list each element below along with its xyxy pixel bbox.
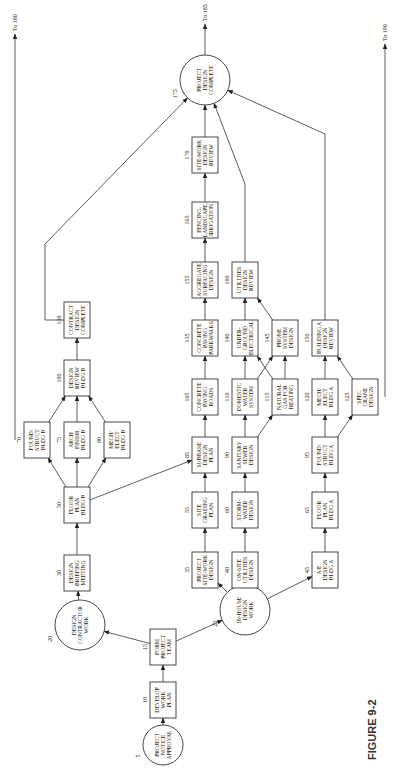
dependency-arrow-90-115 — [257, 415, 272, 437]
node-label-line: NATURAL — [276, 383, 282, 410]
node-label-line: FLOOR — [316, 501, 322, 520]
node-number: 55 — [184, 507, 190, 513]
node-label-line: PLAN — [208, 503, 214, 518]
node-label-line: ELECT — [322, 388, 328, 406]
node-number: 135 — [184, 334, 190, 343]
node-label-line: REVIEW — [328, 326, 334, 348]
node-label-line: GAS FOR — [282, 385, 288, 409]
node-label-line: BLDG B — [80, 368, 86, 389]
node-label-line: ELECT — [114, 431, 120, 449]
figure-label-text: FIGURE 9-2 — [366, 699, 378, 760]
dependency-arrow-20-30 — [78, 591, 79, 600]
node-label-line: DESIGN — [208, 560, 214, 581]
node-label-line: CONCRETE — [196, 323, 202, 353]
node-label-line: IRRIGATION — [208, 204, 214, 236]
dependency-arrow-145-160 — [257, 298, 272, 320]
node-label-line: NOTICE — [160, 734, 166, 755]
node-label-line: FORM — [154, 639, 160, 655]
node-number: 120 — [304, 393, 310, 402]
activity-node-170: 170SITE-WORKDESIGNREVIEW — [184, 137, 218, 173]
node-label-line: REVIEW — [208, 143, 214, 165]
node-number: 170 — [184, 151, 190, 160]
node-number: 125 — [344, 393, 350, 402]
node-label-line: SITE-WORK — [196, 140, 202, 171]
node-label-line: DOMESTIC — [236, 382, 242, 411]
node-number: 175 — [172, 89, 178, 98]
activity-node-15: 15FORMPROJECTTEAM — [142, 629, 176, 665]
node-number: 145 — [264, 334, 270, 343]
dependency-arrow-130-175 — [45, 98, 188, 320]
node-label-line: DESIGN — [68, 563, 74, 584]
off-page-connector-label: To 190 — [382, 24, 388, 41]
activity-node-25: 25IN-HOUSEDESIGNWORK — [212, 585, 270, 635]
node-label-line: DESIGN — [322, 328, 328, 349]
node-label-line: FOUND/ — [28, 429, 34, 450]
node-label-line: UNDER- — [236, 327, 242, 348]
node-label-line: HEATING — [288, 385, 294, 409]
activity-node-95: 95FOUND/STRUCTBLDG A — [304, 437, 338, 473]
node-label-line: WORK — [83, 616, 89, 633]
node-label-line: DESIGN — [248, 560, 254, 581]
node-label-line: COMPLETE — [208, 65, 214, 95]
node-label-line: PARKWALKS — [208, 321, 214, 355]
node-number: 5 — [135, 755, 141, 758]
node-label-line: PHONE — [276, 328, 282, 347]
node-label-line: DESIGN — [248, 445, 254, 466]
node-label-line: DESIGN — [71, 615, 77, 636]
dependency-arrow-95-125 — [337, 415, 352, 437]
node-number: 80 — [96, 437, 102, 443]
activity-node-150: 150BUILDING ADESIGNREVIEW — [304, 320, 338, 356]
dependency-arrow-80-100 — [89, 396, 106, 422]
node-number: 40 — [224, 567, 230, 573]
node-number: 75 — [56, 437, 62, 443]
node-number: 150 — [304, 334, 310, 343]
node-label-line: DESIGN — [368, 387, 374, 408]
node-number: 50 — [56, 502, 62, 508]
node-label-line: DESIGN — [202, 70, 208, 91]
activity-node-155: 155AGGREGATESURFACINGDESIGN — [184, 262, 218, 298]
node-number: 60 — [224, 507, 230, 513]
node-label-line: CRANE — [362, 387, 368, 407]
activity-node-110: 110DOMESTICWATERSYSTEM — [224, 379, 258, 415]
node-label-line: MECH/ — [316, 388, 322, 406]
dependency-arrow-50-80 — [88, 458, 106, 487]
activity-node-85: 85SUBBASEDESIGNPLAN — [184, 437, 218, 473]
node-label-line: PLAN — [322, 503, 328, 518]
node-label-line: DESIGN — [288, 328, 294, 349]
node-label-line: SUBBASE — [196, 442, 202, 468]
node-number: 115 — [264, 393, 270, 402]
node-label-line: STORM- — [236, 499, 242, 520]
node-label-line: SURFACING — [202, 264, 208, 295]
node-label-line: UTILITIES — [236, 267, 242, 293]
node-number: 130 — [56, 316, 62, 325]
node-number: 155 — [184, 276, 190, 285]
activity-node-5: 5PROJECTNOTICEAPPROVAL — [135, 725, 183, 765]
node-label-line: DESIGN — [248, 500, 254, 521]
node-label-line: STRUCT — [322, 444, 328, 466]
node-label-line: PLAN — [74, 498, 80, 513]
node-label-line: MEETING — [80, 560, 86, 585]
node-label-line: BLDG B — [80, 495, 86, 516]
node-label-line: DESIGN — [202, 445, 208, 466]
activity-node-175: 175PROJECTDESIGNCOMPLETE — [172, 55, 230, 105]
node-label-line: PROJECT — [196, 68, 202, 92]
activity-node-120: 120MECH/ELECTBLDG A — [304, 379, 338, 415]
node-label-line: BLDG A — [328, 445, 334, 465]
activity-node-30: 30DESIGNBRIEFINGMEETING — [56, 555, 90, 591]
node-label-line: SITE — [196, 504, 202, 516]
node-number: 65 — [304, 507, 310, 513]
off-page-connector-label: To 185 — [202, 4, 208, 21]
activity-node-165: 165FENCING,LANDSCAPE,IRRIGATION — [184, 202, 218, 238]
node-label-line: BLDG B — [40, 430, 46, 451]
node-label-line: WATER — [242, 387, 248, 406]
node-number: 85 — [184, 452, 190, 458]
node-number: 90 — [224, 452, 230, 458]
node-label-line: DESIGN — [68, 368, 74, 389]
activity-node-40: 40ON-SITEUTILITIESDESIGN — [224, 552, 258, 588]
activity-node-55: 55SITEGRADINGPLAN — [184, 492, 218, 528]
activity-node-115: 115NATURALGAS FORHEATING — [264, 379, 298, 415]
node-label-line: PAVING — [202, 328, 208, 348]
pert-chart-svg: To 180To 185To 190 5PROJECTNOTICEAPPROVA… — [0, 0, 398, 784]
node-label-line: WATER — [242, 500, 248, 519]
activity-node-135: 135CONCRETEPAVINGPARKWALKS — [184, 320, 218, 356]
